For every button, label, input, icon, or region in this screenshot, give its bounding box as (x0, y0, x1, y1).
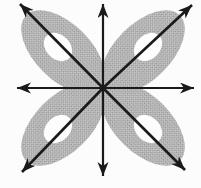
radial-arrows-diagram (0, 0, 201, 188)
figure-canvas (0, 0, 201, 188)
